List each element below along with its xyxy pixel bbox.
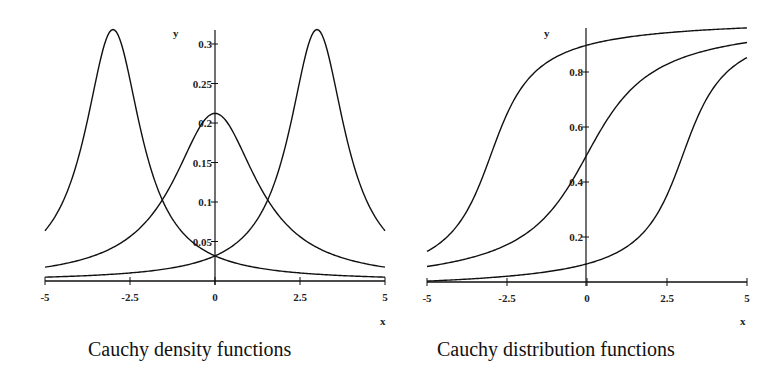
- x-tick-label: 2.5: [660, 292, 674, 304]
- x-tick-label: 0: [212, 291, 218, 303]
- x-tick-label: 2.5: [293, 291, 307, 303]
- y-tick-label: 0.25: [193, 78, 213, 90]
- y-axis-label: y: [544, 27, 550, 39]
- density-caption: Cauchy density functions: [88, 338, 291, 361]
- distribution-plot: -5-2.502.550.20.40.60.8yx: [422, 27, 750, 327]
- y-axis-label: y: [173, 27, 179, 39]
- x-tick-label: -2.5: [121, 291, 139, 303]
- x-tick-label: -5: [422, 292, 432, 304]
- chart-canvas: -5-2.502.550.050.10.150.20.250.3yx -5-2.…: [0, 0, 777, 384]
- distribution-caption: Cauchy distribution functions: [437, 338, 675, 361]
- x-tick-label: 5: [382, 291, 388, 303]
- y-tick-label: 0.3: [198, 38, 212, 50]
- x-tick-label: 0: [584, 292, 590, 304]
- x-axis-label: x: [380, 315, 386, 327]
- x-tick-label: -2.5: [498, 292, 516, 304]
- x-tick-label: 5: [744, 292, 750, 304]
- y-tick-label: 0.2: [569, 231, 583, 243]
- y-tick-label: 0.1: [198, 196, 212, 208]
- y-tick-label: 0.6: [569, 121, 583, 133]
- y-tick-label: 0.05: [193, 236, 213, 248]
- y-tick-label: 0.15: [193, 157, 213, 169]
- curve-1: [427, 43, 747, 267]
- density-plot: -5-2.502.550.050.10.150.20.250.3yx: [40, 27, 388, 327]
- x-axis-label: x: [740, 315, 746, 327]
- curve-2: [427, 58, 747, 282]
- y-tick-label: 0.8: [569, 66, 583, 78]
- curve-0: [427, 28, 747, 252]
- x-tick-label: -5: [40, 291, 50, 303]
